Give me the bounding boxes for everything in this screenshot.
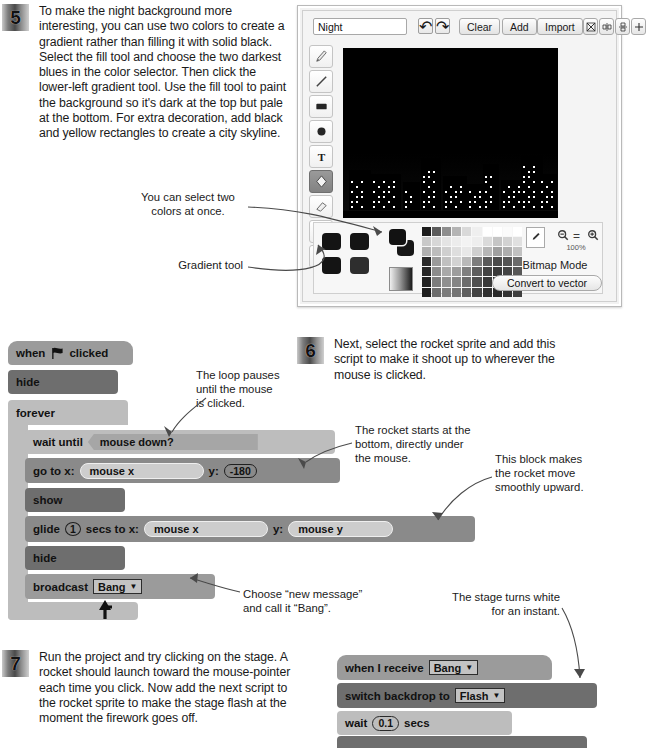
color-swatch[interactable]: [493, 237, 502, 246]
color-swatch[interactable]: [442, 257, 451, 266]
color-swatch[interactable]: [422, 237, 431, 246]
color-swatch[interactable]: [432, 277, 441, 286]
color-swatch[interactable]: [422, 288, 431, 297]
wait-until-block[interactable]: wait until mouse down?: [25, 430, 335, 454]
mouse-down-boolean[interactable]: mouse down?: [88, 434, 258, 450]
mouse-x-reporter[interactable]: mouse x: [80, 463, 204, 479]
wait-secs-input[interactable]: 0.1: [372, 716, 399, 731]
color-swatch[interactable]: [483, 267, 492, 276]
hide-block-2[interactable]: hide: [25, 546, 125, 570]
glide-block[interactable]: glide 1 secs to x: mouse x y: mouse y: [25, 516, 475, 542]
glide-secs-input[interactable]: 1: [65, 522, 81, 536]
color-swatch[interactable]: [452, 237, 461, 246]
glide-mouse-y-reporter[interactable]: mouse y: [288, 521, 393, 537]
color-swatch[interactable]: [462, 247, 471, 256]
glide-mouse-x-reporter[interactable]: mouse x: [144, 521, 268, 537]
receive-message-dropdown[interactable]: Bang ▼: [429, 660, 478, 675]
color-swatch[interactable]: [422, 247, 431, 256]
horizontal-gradient-button[interactable]: [350, 233, 369, 250]
color-swatch[interactable]: [462, 277, 471, 286]
clear-button[interactable]: Clear: [459, 18, 500, 35]
color-swatch[interactable]: [452, 257, 461, 266]
color-swatch[interactable]: [493, 247, 502, 256]
costume-name-input[interactable]: [313, 18, 407, 35]
color-swatch[interactable]: [503, 227, 512, 236]
color-swatch[interactable]: [442, 267, 451, 276]
color-swatch[interactable]: [452, 227, 461, 236]
zoom-in-button[interactable]: [587, 229, 599, 244]
color-swatch[interactable]: [422, 277, 431, 286]
color-swatch[interactable]: [472, 227, 481, 236]
zoom-out-button[interactable]: [557, 229, 569, 244]
drawing-canvas[interactable]: [343, 48, 558, 218]
hide-block[interactable]: hide: [8, 370, 118, 394]
color-swatch[interactable]: [472, 257, 481, 266]
color-swatch[interactable]: [513, 237, 522, 246]
convert-to-vector-button[interactable]: Convert to vector: [492, 275, 602, 291]
color-swatch[interactable]: [483, 257, 492, 266]
color-swatch[interactable]: [442, 277, 451, 286]
flip-vertical-icon[interactable]: [615, 18, 630, 35]
paint-editor-window[interactable]: ↶ ↷ Clear Add Import: [297, 5, 622, 307]
color-swatch[interactable]: [493, 257, 502, 266]
color-swatch[interactable]: [472, 237, 481, 246]
y-value-input[interactable]: -180: [224, 464, 257, 478]
color-swatch[interactable]: [432, 288, 441, 297]
rectangle-tool[interactable]: [309, 95, 333, 118]
add-button[interactable]: Add: [502, 18, 537, 35]
color-swatch[interactable]: [472, 247, 481, 256]
color-swatch[interactable]: [483, 237, 492, 246]
switch-backdrop-block[interactable]: switch backdrop to Flash ▼: [337, 683, 597, 708]
text-tool[interactable]: T: [309, 145, 333, 168]
color-swatch[interactable]: [462, 257, 471, 266]
wait-secs-block[interactable]: wait 0.1 secs: [337, 711, 512, 735]
solid-fill-button[interactable]: [322, 233, 341, 250]
color-swatch[interactable]: [462, 227, 471, 236]
color-swatch[interactable]: [472, 277, 481, 286]
import-button[interactable]: Import: [537, 18, 583, 35]
go-to-xy-block[interactable]: go to x: mouse x y: -180: [25, 458, 340, 483]
color-swatch[interactable]: [422, 257, 431, 266]
show-block[interactable]: show: [25, 488, 125, 512]
zoom-reset-button[interactable]: =: [573, 229, 580, 243]
when-i-receive-block[interactable]: when I receive Bang ▼: [337, 655, 552, 680]
crop-icon[interactable]: [583, 18, 598, 35]
color-swatch[interactable]: [422, 267, 431, 276]
undo-button[interactable]: ↶: [418, 18, 433, 34]
color-swatch[interactable]: [452, 247, 461, 256]
color-swatch[interactable]: [432, 227, 441, 236]
broadcast-message-dropdown[interactable]: Bang ▼: [93, 579, 142, 594]
foreground-color-swatch[interactable]: [389, 229, 406, 245]
color-swatch[interactable]: [503, 237, 512, 246]
color-swatch[interactable]: [432, 257, 441, 266]
radial-gradient-button[interactable]: [350, 257, 369, 274]
color-swatch[interactable]: [452, 267, 461, 276]
color-swatch[interactable]: [452, 288, 461, 297]
ellipse-tool[interactable]: [309, 120, 333, 143]
broadcast-block[interactable]: broadcast Bang ▼: [25, 574, 215, 599]
line-tool[interactable]: [309, 70, 333, 93]
redo-button[interactable]: ↷: [435, 18, 450, 34]
color-swatch[interactable]: [442, 247, 451, 256]
color-swatch[interactable]: [483, 277, 492, 286]
color-swatch[interactable]: [483, 227, 492, 236]
color-swatch[interactable]: [483, 247, 492, 256]
color-swatch[interactable]: [432, 267, 441, 276]
vertical-gradient-button[interactable]: [322, 257, 341, 274]
eyedropper-icon[interactable]: [526, 227, 545, 248]
color-swatch[interactable]: [432, 237, 441, 246]
color-swatch[interactable]: [462, 288, 471, 297]
color-swatch[interactable]: [483, 288, 492, 297]
backdrop-dropdown[interactable]: Flash ▼: [455, 688, 506, 703]
color-swatch[interactable]: [472, 288, 481, 297]
color-swatch[interactable]: [472, 267, 481, 276]
color-swatch[interactable]: [513, 227, 522, 236]
eraser-tool[interactable]: [309, 195, 333, 218]
next-block-partial[interactable]: [337, 736, 587, 748]
flip-horizontal-icon[interactable]: [599, 18, 614, 35]
color-swatch[interactable]: [442, 288, 451, 297]
color-swatch[interactable]: [493, 227, 502, 236]
paintbrush-tool[interactable]: [309, 45, 333, 68]
color-swatch[interactable]: [432, 247, 441, 256]
fill-tool[interactable]: [309, 170, 333, 193]
